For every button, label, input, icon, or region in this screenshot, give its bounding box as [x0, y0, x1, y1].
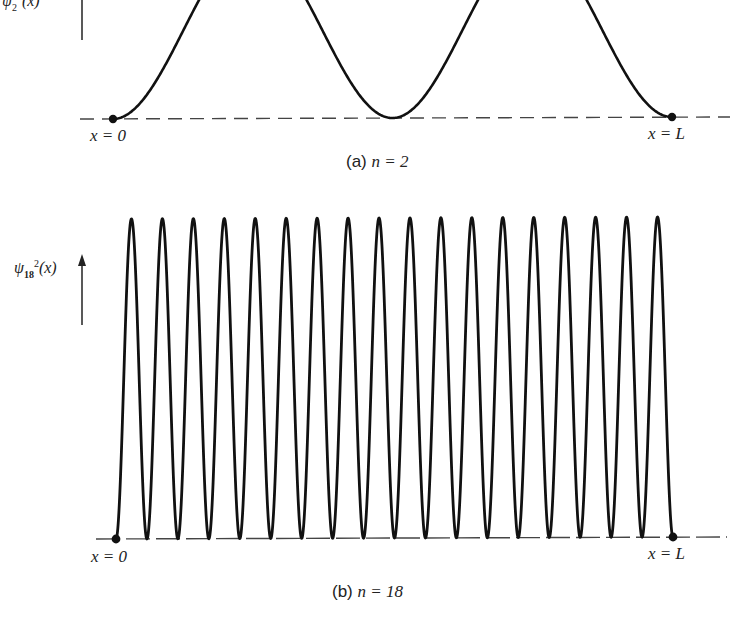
ylabel-arg: (x) [39, 259, 57, 276]
plot-b [78, 217, 727, 543]
endpoint-xL-a [668, 113, 676, 121]
x0-label-b: x = 0 [91, 547, 127, 567]
endpoint-xL-b [669, 533, 678, 542]
y-axis-label-b: ψ182(x) [14, 258, 57, 280]
curve-psi2-squared [113, 0, 672, 119]
ylabel-arg: (x) [22, 0, 40, 9]
xL-label-b: x = L [648, 544, 685, 564]
caption-a-n: n = 2 [372, 152, 409, 171]
caption-a-prefix: (a) [346, 152, 367, 171]
x0-label-a: x = 0 [90, 126, 126, 146]
curve-psi18-squared [116, 217, 673, 539]
psi-symbol: ψ [14, 259, 24, 276]
endpoint-x0-b [112, 535, 121, 544]
endpoint-x0-a [109, 115, 117, 123]
baseline-b [96, 537, 727, 539]
ylabel-subscript: 18 [24, 269, 34, 280]
caption-b-n: n = 18 [358, 582, 403, 601]
caption-a: (a) n = 2 [346, 152, 409, 172]
figure-canvas [0, 0, 739, 628]
y-axis-label-a: ψ22(x) [2, 0, 40, 13]
caption-b-prefix: (b) [332, 582, 353, 601]
psi-symbol: ψ [2, 0, 12, 9]
ylabel-subscript: 2 [12, 2, 17, 13]
xL-label-a: x = L [648, 124, 685, 144]
baseline-a [80, 117, 730, 119]
caption-b: (b) n = 18 [332, 582, 403, 602]
arrow-head-icon [78, 254, 86, 266]
plot-a [80, 0, 730, 123]
